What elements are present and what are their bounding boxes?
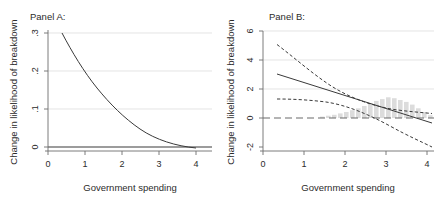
- panel-b-y-axis-label: Change in likelihood of breakdown: [225, 19, 236, 164]
- panel-a-gridlines: [48, 33, 212, 109]
- panel-b-xtick-1: 1: [301, 159, 306, 169]
- panel-a-xtick-4: 4: [193, 159, 198, 169]
- panel-a-ytick-2: .2: [30, 67, 40, 75]
- panel-a-marginal-effect-curve: [62, 33, 196, 148]
- panel-b-xtick-3: 3: [383, 159, 388, 169]
- figure-container: 0 1 2 3 4 .3 .2 .1 0 Change in likelihoo…: [0, 0, 444, 208]
- panel-b-xtick-2: 2: [342, 159, 347, 169]
- panel-b-plot: 0 1 2 3 4 6 4 2 0 -2 Change in likelihoo…: [222, 0, 444, 208]
- panel-b-gridlines: [263, 31, 434, 89]
- panel-a-title: Panel A:: [30, 11, 65, 22]
- panel-a-ytick-0: 0: [30, 144, 40, 149]
- panel-a-xtick-2: 2: [119, 159, 124, 169]
- panel-a: 0 1 2 3 4 .3 .2 .1 0 Change in likelihoo…: [0, 0, 222, 208]
- panel-b-ytick-6: 6: [245, 28, 255, 33]
- panel-a-ytick-3: .3: [30, 29, 40, 37]
- panel-b-x-axis-label: Government spending: [301, 182, 394, 193]
- panel-b-title: Panel B:: [269, 11, 305, 22]
- panel-a-x-axis-label: Government spending: [83, 182, 176, 193]
- panel-b-y-tickmarks: [259, 31, 263, 147]
- panel-a-y-tickmarks: [44, 33, 48, 147]
- panel-b-ytick-m2: -2: [245, 143, 255, 151]
- panel-a-ytick-1: .1: [30, 105, 40, 113]
- panel-b-x-tickmarks: [263, 151, 427, 155]
- panel-a-x-tickmarks: [48, 151, 196, 155]
- panel-a-xtick-3: 3: [156, 159, 161, 169]
- panel-b-upper-ci-curve: [277, 45, 432, 114]
- panel-a-y-axis-label: Change in likelihood of breakdown: [8, 19, 19, 164]
- panel-b-ytick-0: 0: [245, 115, 255, 120]
- panel-a-xtick-1: 1: [82, 159, 87, 169]
- panel-a-plot: 0 1 2 3 4 .3 .2 .1 0 Change in likelihoo…: [0, 0, 222, 208]
- panel-b-ytick-2: 2: [245, 86, 255, 91]
- panel-b-lower-ci-curve: [277, 99, 432, 147]
- panel-a-xtick-0: 0: [45, 159, 50, 169]
- panel-b-ytick-4: 4: [245, 57, 255, 62]
- panel-b: 0 1 2 3 4 6 4 2 0 -2 Change in likelihoo…: [222, 0, 444, 208]
- panel-b-histogram: [320, 97, 433, 118]
- panel-b-xtick-0: 0: [260, 159, 265, 169]
- panel-b-xtick-4: 4: [424, 159, 429, 169]
